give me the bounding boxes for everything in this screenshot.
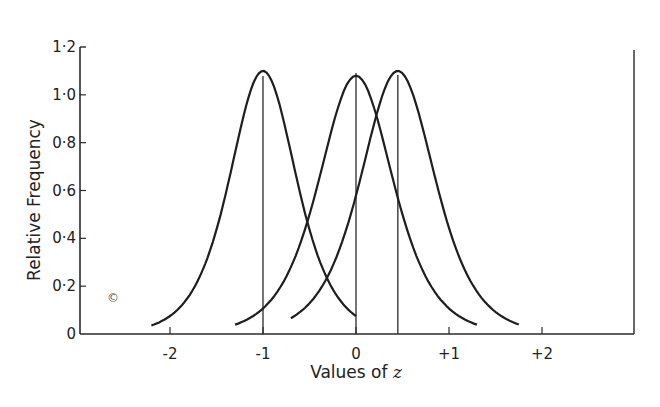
x-tick-label: +1 <box>438 345 460 363</box>
y-tick-label: 1·0 <box>52 86 76 104</box>
y-tick-label: 0·6 <box>52 182 76 200</box>
copyright-mark: © <box>107 291 119 305</box>
chart: 00·20·40·60·81·01·2-2-10+1+2Values of zR… <box>0 0 660 407</box>
distribution-curve <box>291 71 519 324</box>
y-axis-title: Relative Frequency <box>24 119 44 281</box>
y-tick-label: 1·2 <box>52 38 76 56</box>
y-tick-label: 0 <box>66 325 76 343</box>
y-tick-label: 0·4 <box>52 229 76 247</box>
y-tick-label: 0·2 <box>52 277 76 295</box>
x-axis-title: Values of z <box>310 362 403 382</box>
x-tick-label: +2 <box>531 345 553 363</box>
y-tick-label: 0·8 <box>52 134 76 152</box>
x-tick-label: 0 <box>351 345 361 363</box>
x-tick-label: -1 <box>256 345 271 363</box>
x-tick-label: -2 <box>163 345 178 363</box>
distribution-curve <box>151 71 356 326</box>
